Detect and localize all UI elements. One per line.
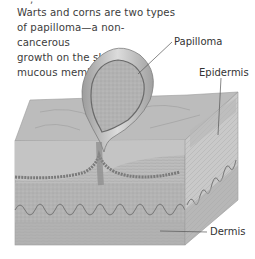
label-dermis: Dermis [210,226,246,237]
label-epidermis: Epidermis [199,67,249,78]
label-papilloma: Papilloma [174,36,222,47]
